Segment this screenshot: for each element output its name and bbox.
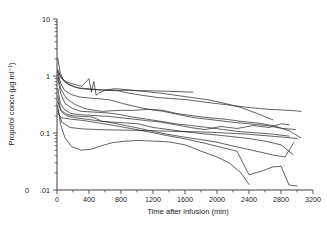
y-axis-break-zero-label: 0 — [25, 186, 29, 195]
figure-container: .010.1110 040080012001600200024002800320… — [0, 0, 327, 225]
y-tick-label: 0.1 — [40, 129, 50, 138]
y-tick-label: 1 — [46, 72, 50, 81]
x-tick-label: 2400 — [241, 195, 257, 204]
data-curve — [58, 71, 273, 120]
x-tick-label: 400 — [83, 195, 95, 204]
data-curve — [58, 58, 193, 92]
data-curves-group — [58, 58, 301, 186]
y-axis-title: Propofol concn (µg ml⁻¹) — [7, 62, 16, 146]
x-tick-label: 1600 — [177, 195, 193, 204]
y-axis-ticks — [53, 19, 57, 190]
data-curve — [58, 106, 249, 185]
x-tick-label: 2800 — [273, 195, 289, 204]
x-axis-tick-labels: 0400800120016002000240028003200 — [55, 195, 321, 204]
y-axis-tick-labels: .010.1110 — [40, 15, 50, 195]
axes-group — [57, 19, 313, 190]
x-tick-label: 2000 — [209, 195, 225, 204]
propofol-concentration-chart: .010.1110 040080012001600200024002800320… — [0, 0, 327, 225]
x-tick-label: 0 — [55, 195, 59, 204]
x-tick-label: 3200 — [305, 195, 321, 204]
data-curve — [58, 96, 293, 155]
data-curve — [58, 72, 296, 130]
y-tick-label: 10 — [42, 15, 50, 24]
x-tick-label: 1200 — [145, 195, 161, 204]
data-curve — [58, 70, 301, 112]
y-tick-label: .01 — [40, 186, 50, 195]
x-axis-title: Time after infusion (min) — [147, 207, 229, 216]
x-tick-label: 800 — [115, 195, 127, 204]
x-axis-ticks — [57, 190, 313, 194]
